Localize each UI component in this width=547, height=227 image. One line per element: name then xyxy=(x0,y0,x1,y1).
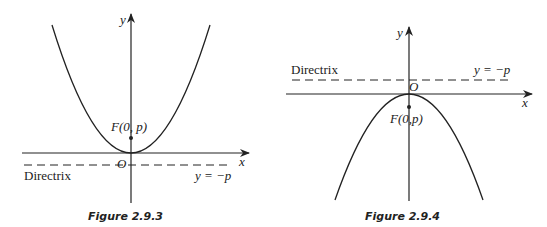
parabola-figures: y x O F(0, p) Directrix y = −p Figure 2.… xyxy=(0,0,547,227)
x-axis-label: x xyxy=(238,154,245,169)
focus-label: F(0,p) xyxy=(389,111,423,126)
figure-2-9-4: y x O F(0,p) Directrix y = −p Figure 2.9… xyxy=(286,25,532,223)
figure-2-9-3: y x O F(0, p) Directrix y = −p Figure 2.… xyxy=(22,12,249,223)
y-axis-label: y xyxy=(118,12,126,27)
directrix-equation: y = −p xyxy=(193,168,232,183)
directrix-label: Directrix xyxy=(291,62,338,77)
figure-caption: Figure 2.9.4 xyxy=(365,210,440,223)
origin-label: O xyxy=(117,156,127,171)
focus-point xyxy=(407,105,411,109)
focus-label: F(0, p) xyxy=(110,119,147,134)
figure-caption: Figure 2.9.3 xyxy=(88,210,163,223)
directrix-equation: y = −p xyxy=(472,62,511,77)
y-axis-label: y xyxy=(395,25,403,40)
origin-label: O xyxy=(409,79,419,94)
x-axis-label: x xyxy=(521,95,528,110)
directrix-label: Directrix xyxy=(24,168,71,183)
focus-point xyxy=(129,136,133,140)
